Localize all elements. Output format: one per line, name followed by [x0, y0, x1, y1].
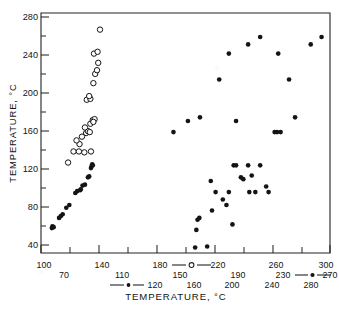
data-point-filled-dot	[60, 212, 65, 217]
data-point-filled-dot	[319, 35, 324, 40]
y-tick-label: 80	[28, 202, 38, 212]
data-point-open-circle	[97, 27, 102, 32]
data-point-filled-dot	[249, 173, 254, 178]
data-point-filled-dot	[205, 244, 210, 249]
x-tick-label-row1: 260	[269, 260, 284, 270]
y-axis-title: TEMPERATURE, °C	[7, 83, 18, 182]
data-point-open-circle	[82, 150, 87, 155]
data-point-open-circle	[65, 160, 70, 165]
data-point-filled-dot	[87, 174, 92, 179]
data-point-filled-dot	[217, 77, 222, 82]
x-tick-label-row1: 100	[37, 260, 52, 270]
x-tick-label-row3: 200	[225, 280, 240, 290]
data-point-filled-dot	[253, 190, 258, 195]
x-tick-label-row1: 300	[319, 260, 334, 270]
x-tick-label-row3: 120	[148, 280, 163, 290]
scatter-plot-figure: 40 80 120 160 200 240 280 TEMPERATURE, °…	[0, 0, 339, 309]
data-point-filled-dot	[213, 190, 218, 195]
x-tick-label-row2: 70	[59, 270, 69, 280]
open-circle-icon	[189, 263, 194, 268]
x-tick-label-row2: 230	[276, 270, 291, 280]
y-tick-label: 160	[23, 126, 38, 136]
data-point-filled-dot	[208, 179, 213, 184]
data-point-filled-dot	[83, 182, 88, 187]
y-tick-label: 280	[23, 12, 38, 22]
data-point-open-circle	[91, 80, 96, 85]
data-point-filled-dot	[193, 245, 198, 250]
filled-dot-icon	[310, 273, 314, 277]
data-point-filled-dot	[171, 130, 176, 135]
x-tick-label-row1: 180	[153, 260, 168, 270]
data-point-filled-dot	[51, 225, 56, 230]
data-point-filled-dot	[276, 51, 281, 56]
data-point-filled-dot	[194, 228, 199, 233]
data-point-filled-dot	[246, 42, 251, 47]
x-tick-label-row3: 240	[265, 280, 280, 290]
data-point-filled-dot	[210, 208, 215, 213]
data-point-filled-dot	[278, 130, 283, 135]
data-point-filled-dot	[198, 115, 203, 120]
data-point-open-circle	[86, 93, 91, 98]
data-point-filled-dot	[247, 190, 252, 195]
data-point-open-circle	[88, 149, 93, 154]
data-point-filled-dot	[197, 216, 202, 221]
data-point-filled-dot	[90, 163, 95, 168]
data-point-filled-dot	[308, 42, 313, 47]
data-point-open-circle	[87, 129, 92, 134]
x-tick-label-row1: 140	[95, 260, 110, 270]
data-point-open-circle	[74, 138, 79, 143]
data-point-open-circle	[95, 60, 100, 65]
data-point-open-circle	[91, 119, 96, 124]
data-point-filled-dot	[221, 197, 226, 202]
y-tick-label: 120	[23, 164, 38, 174]
data-point-filled-dot	[293, 115, 298, 120]
y-tick-label: 240	[23, 50, 38, 60]
y-tick-label: 200	[23, 88, 38, 98]
x-tick-label-row2: 110	[115, 270, 129, 280]
data-point-filled-dot	[258, 35, 263, 40]
data-point-filled-dot	[241, 177, 246, 182]
data-point-open-circle	[94, 68, 99, 73]
data-point-filled-dot	[246, 163, 251, 168]
x-tick-label-row3: 280	[304, 280, 319, 290]
data-point-filled-dot	[234, 163, 239, 168]
data-point-filled-dot	[227, 51, 232, 56]
data-point-filled-dot	[67, 203, 72, 208]
data-point-open-circle	[76, 149, 81, 154]
x-tick-label-row2: 190	[231, 270, 246, 280]
x-tick-label-row3: 160	[187, 280, 202, 290]
small-filled-dot-icon	[127, 283, 131, 287]
data-point-filled-dot	[234, 119, 239, 124]
data-point-filled-dot	[230, 222, 235, 227]
data-point-filled-dot	[266, 190, 271, 195]
data-point-open-circle	[82, 125, 87, 130]
data-point-filled-dot	[224, 203, 229, 208]
data-point-filled-dot	[287, 77, 292, 82]
x-tick-label-row1: 220	[211, 260, 226, 270]
x-axis-title: TEMPERATURE, °C	[125, 291, 226, 302]
data-point-open-circle	[95, 49, 100, 54]
data-point-filled-dot	[227, 190, 232, 195]
y-tick-label: 40	[28, 240, 38, 250]
data-point-open-circle	[71, 149, 76, 154]
x-tick-label-row2: 150	[173, 270, 188, 280]
data-point-filled-dot	[264, 184, 269, 189]
data-point-filled-dot	[186, 119, 191, 124]
data-point-filled-dot	[258, 163, 263, 168]
